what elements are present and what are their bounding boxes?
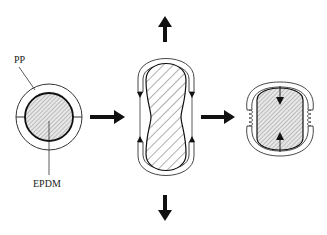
arrow-right-icon bbox=[90, 110, 125, 124]
deformation-diagram: PP EPDM bbox=[0, 0, 327, 235]
arrow-down-icon bbox=[158, 195, 172, 221]
arrow-right-icon bbox=[201, 110, 235, 124]
stage-recovered bbox=[247, 82, 314, 156]
arrow-up-icon bbox=[158, 16, 172, 42]
stage-initial: PP EPDM bbox=[14, 54, 82, 189]
pp-label: PP bbox=[14, 54, 26, 65]
stage-stretched bbox=[137, 59, 195, 176]
epdm-label: EPDM bbox=[33, 178, 61, 189]
